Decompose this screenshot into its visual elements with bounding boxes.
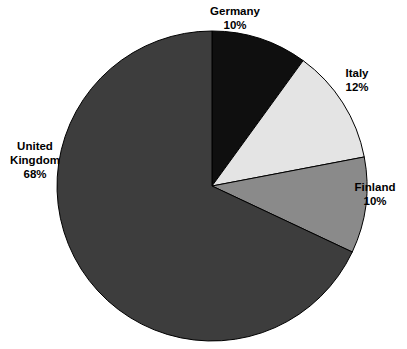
pie-label-germany: Germany 10% — [186, 4, 284, 32]
pie-label-finland: Finland 10% — [342, 180, 407, 208]
pie-label-italy: Italy 12% — [322, 66, 392, 94]
pie-label-united-kingdom: United Kingdom 68% — [0, 139, 70, 181]
pie-chart-container: Germany 10% Italy 12% Finland 10% United… — [0, 0, 407, 349]
pie-slice-group — [57, 31, 367, 341]
